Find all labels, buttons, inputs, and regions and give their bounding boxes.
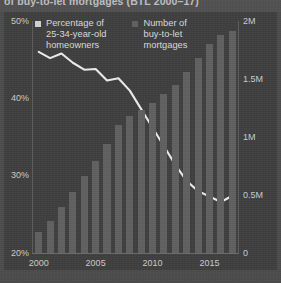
right-tick-1M: 1M: [243, 133, 256, 142]
bar-2011: [160, 94, 167, 253]
bar-2000: [35, 232, 42, 253]
bar-2001: [47, 221, 54, 253]
right-axis-line: [238, 21, 239, 254]
legend-swatch-icon: [132, 21, 138, 27]
x-tick-2000: 2000: [23, 259, 55, 268]
chart-title-strip: of buy-to-let mortgages (BTL 2000–17): [0, 0, 281, 12]
chart-screenshot: of buy-to-let mortgages (BTL 2000–17) 20…: [0, 0, 281, 283]
left-tick-40%: 40%: [11, 94, 29, 103]
bar-2017: [229, 31, 236, 253]
x-tick-2015: 2015: [194, 259, 226, 268]
plot-area: [33, 21, 238, 253]
page-title: of buy-to-let mortgages (BTL 2000–17): [4, 0, 199, 7]
legend-label: Percentage of 25-34-year-old homeowners: [46, 18, 106, 51]
bar-2013: [183, 72, 190, 253]
legend-item-homeowners: Percentage of 25-34-year-old homeowners: [35, 18, 106, 51]
bar-2014: [195, 58, 202, 253]
bar-2005: [92, 161, 99, 253]
bar-2002: [58, 207, 65, 253]
chart-legend: Percentage of 25-34-year-old homeowners …: [35, 18, 187, 51]
chart-panel: 20%30%40%50% 2M1.5M1M0.5M0 2000200520102…: [4, 12, 277, 270]
left-tick-50%: 50%: [11, 17, 29, 26]
bar-2012: [172, 85, 179, 253]
legend-item-mortgages: Number of buy-to-let mortgages: [132, 18, 187, 51]
right-tick-2M: 2M: [243, 17, 256, 26]
x-tick-2005: 2005: [80, 259, 112, 268]
legend-swatch-icon: [35, 21, 41, 27]
right-tick-0: 0: [243, 249, 248, 258]
left-tick-20%: 20%: [11, 249, 29, 258]
bar-2010: [149, 103, 156, 253]
bar-2016: [217, 35, 224, 253]
x-tick-2010: 2010: [137, 259, 169, 268]
x-axis-baseline: [32, 253, 239, 254]
legend-label: Number of buy-to-let mortgages: [143, 18, 187, 51]
bar-2015: [206, 44, 213, 253]
bar-2008: [126, 116, 133, 253]
bar-2009: [138, 110, 145, 253]
bar-2004: [81, 176, 88, 253]
bar-2007: [115, 125, 122, 253]
right-tick-0.5M: 0.5M: [243, 191, 263, 200]
bar-2006: [103, 144, 110, 253]
bar-2003: [69, 192, 76, 253]
right-tick-1.5M: 1.5M: [243, 75, 263, 84]
left-tick-30%: 30%: [11, 171, 29, 180]
